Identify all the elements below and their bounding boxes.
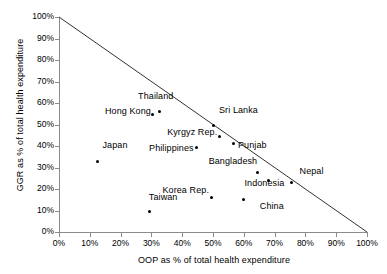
x-tick-mark <box>213 233 214 237</box>
data-point-label: Korea Rep. <box>162 185 209 195</box>
data-point-marker[interactable] <box>218 135 221 138</box>
x-tick-mark <box>367 233 368 237</box>
data-point-label: China <box>260 201 284 211</box>
data-point-label: Japan <box>103 140 128 150</box>
x-tick-mark <box>336 233 337 237</box>
y-axis-line <box>59 17 60 233</box>
y-tick-label: 20% <box>20 183 54 193</box>
x-tick-label: 0% <box>42 238 76 248</box>
x-tick-label: 80% <box>288 238 322 248</box>
y-tick-label: 0% <box>20 226 54 236</box>
x-tick-label: 90% <box>319 238 353 248</box>
data-point-label: Thailand <box>138 91 173 101</box>
y-tick-mark <box>55 189 59 190</box>
x-tick-mark <box>182 233 183 237</box>
data-point-label: Sri Lanka <box>219 105 258 115</box>
data-point-marker[interactable] <box>158 110 161 113</box>
x-tick-mark <box>244 233 245 237</box>
data-point-label: Indonesia <box>244 178 284 188</box>
y-tick-label: 10% <box>20 205 54 215</box>
scatter-chart: GGR as % of total health expenditure OOP… <box>0 0 387 274</box>
data-point-label: Punjab <box>238 140 267 150</box>
x-tick-label: 10% <box>73 238 107 248</box>
data-point-marker[interactable] <box>256 171 259 174</box>
data-point-label: Bangladesh <box>209 156 258 166</box>
x-tick-mark <box>275 233 276 237</box>
data-point-label: Kyrgyz Rep. <box>167 127 217 137</box>
x-tick-mark <box>59 233 60 237</box>
x-tick-label: 100% <box>350 238 384 248</box>
y-tick-label: 40% <box>20 140 54 150</box>
y-tick-label: 90% <box>20 33 54 43</box>
y-tick-mark <box>55 211 59 212</box>
y-tick-mark <box>55 168 59 169</box>
y-tick-label: 80% <box>20 54 54 64</box>
x-tick-label: 50% <box>196 238 230 248</box>
data-point-marker[interactable] <box>290 181 293 184</box>
data-point-label: Nepal <box>300 166 324 176</box>
y-tick-mark <box>55 125 59 126</box>
y-tick-mark <box>55 60 59 61</box>
data-point-marker[interactable] <box>96 160 99 163</box>
data-point-marker[interactable] <box>210 196 213 199</box>
y-tick-label: 70% <box>20 76 54 86</box>
y-tick-mark <box>55 146 59 147</box>
y-tick-mark <box>55 39 59 40</box>
x-tick-mark <box>121 233 122 237</box>
data-point-label: Hong Kong <box>105 106 151 116</box>
y-tick-label: 60% <box>20 97 54 107</box>
y-tick-label: 100% <box>20 11 54 21</box>
data-point-marker[interactable] <box>151 113 154 116</box>
data-point-marker[interactable] <box>148 210 151 213</box>
x-tick-label: 20% <box>104 238 138 248</box>
y-tick-mark <box>55 17 59 18</box>
y-tick-label: 30% <box>20 162 54 172</box>
x-tick-label: 30% <box>134 238 168 248</box>
data-point-marker[interactable] <box>232 142 235 145</box>
data-point-marker[interactable] <box>195 146 198 149</box>
y-tick-mark <box>55 103 59 104</box>
x-tick-mark <box>305 233 306 237</box>
y-tick-mark <box>55 82 59 83</box>
x-tick-label: 40% <box>165 238 199 248</box>
x-tick-label: 60% <box>227 238 261 248</box>
x-tick-mark <box>90 233 91 237</box>
data-point-label: Philippines <box>149 143 194 153</box>
x-tick-mark <box>151 233 152 237</box>
x-tick-label: 70% <box>258 238 292 248</box>
data-point-marker[interactable] <box>242 198 245 201</box>
y-tick-label: 50% <box>20 119 54 129</box>
x-axis-title: OOP as % of total health expenditure <box>60 255 368 265</box>
